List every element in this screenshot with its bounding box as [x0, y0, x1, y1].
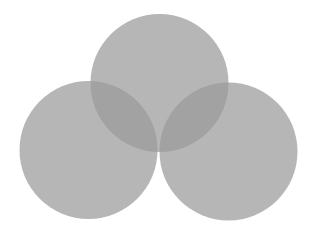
venn-svg — [0, 0, 317, 238]
venn-diagram — [0, 0, 317, 238]
circle-left — [20, 81, 158, 219]
circle-right — [160, 83, 298, 221]
